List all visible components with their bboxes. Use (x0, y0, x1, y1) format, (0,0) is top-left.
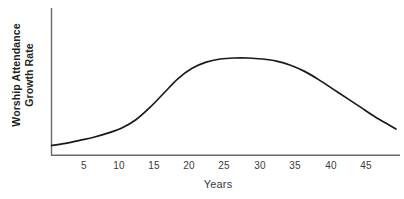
chart-figure: 5 10 15 20 25 30 35 40 45 Years Worship … (0, 0, 404, 199)
y-axis-title: Worship Attendance Growth Rate (10, 0, 36, 150)
x-tick-label: 40 (316, 160, 346, 172)
y-axis-title-line-1: Worship Attendance (10, 0, 23, 150)
x-tick-label: 5 (69, 160, 99, 172)
data-series-line (52, 58, 397, 146)
x-tick-label: 20 (174, 160, 204, 172)
x-axis-title: Years (0, 178, 404, 190)
x-tick-label: 25 (209, 160, 239, 172)
x-tick-label: 30 (245, 160, 275, 172)
x-axis-title-text: Years (204, 178, 233, 190)
x-tick-label: 35 (280, 160, 310, 172)
x-tick-label: 15 (139, 160, 169, 172)
x-tick-label: 45 (351, 160, 381, 172)
y-axis-title-line-2: Growth Rate (23, 0, 36, 150)
x-tick-label: 10 (104, 160, 134, 172)
